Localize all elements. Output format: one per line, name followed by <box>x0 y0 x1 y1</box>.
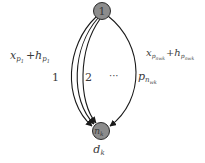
path-2-label: 2 <box>85 71 92 84</box>
left-flow-formula: xp1+hp1 <box>10 49 50 64</box>
path-ellipsis-label: ··· <box>109 70 119 81</box>
path-1-label: 1 <box>52 71 59 84</box>
svg-text:dk: dk <box>93 143 104 157</box>
node-dest: nk dk <box>93 123 110 158</box>
node-source-label: 1 <box>99 5 106 18</box>
dest-demand-label: d <box>93 143 100 156</box>
right-flow-formula: xpnwk+hpnwk <box>146 47 194 61</box>
edges <box>71 16 136 126</box>
path-diagram: 1 nk dk 1 2 ··· pnwk xp1+hp1 xpnwk+hpnwk <box>0 0 205 163</box>
node-source: 1 <box>94 3 111 20</box>
path-last-label: pnwk <box>138 70 157 85</box>
